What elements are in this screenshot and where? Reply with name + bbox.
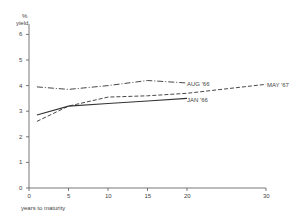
y-unit-label: % — [22, 13, 28, 19]
x-tick-label: 30 — [263, 193, 270, 199]
y-tick-label: 6 — [19, 31, 23, 37]
y-tick-label: 1 — [19, 159, 23, 165]
series-lines — [37, 81, 266, 122]
x-tick-label: 5 — [67, 193, 71, 199]
x-tick-label: 20 — [184, 193, 191, 199]
legend-aug-66: AUG '66 — [187, 81, 210, 87]
y-tick-label: 3 — [19, 108, 23, 114]
series-line-may-67 — [37, 84, 266, 121]
x-tick-label: 15 — [145, 193, 152, 199]
y-tick-label: 0 — [19, 185, 23, 191]
x-axis-label: years to maturity — [21, 205, 65, 211]
series-line-aug-66 — [37, 81, 187, 90]
x-tick-label: 10 — [105, 193, 112, 199]
legend-may-67: MAY '67 — [267, 82, 290, 88]
yield-curve-chart: 01234560510152030 % yield years to matur… — [0, 0, 301, 219]
y-tick-label: 5 — [19, 57, 23, 63]
y-tick-label: 4 — [19, 83, 23, 89]
legend-jan-66: JAN '66 — [187, 97, 208, 103]
y-tick-label: 2 — [19, 134, 23, 140]
series-line-jan-66 — [37, 98, 187, 115]
y-axis-label: yield — [16, 20, 28, 26]
x-tick-label: 0 — [28, 193, 32, 199]
tick-labels: 01234560510152030 — [19, 31, 270, 199]
